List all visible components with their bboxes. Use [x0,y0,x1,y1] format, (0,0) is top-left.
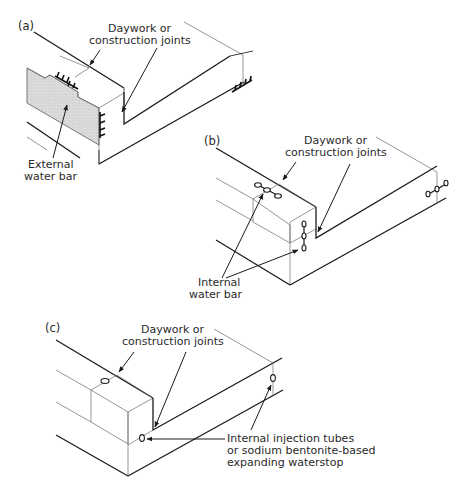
joint-line-top-b [75,68,89,77]
back-line-1 [216,178,253,199]
arrow-c-waterstop-far [251,385,271,430]
panel-b-joint-label-2: construction joints [285,146,387,159]
back-line-c2 [56,402,91,422]
diagram-canvas: (a) [0,0,466,498]
arrow-c-joint-1 [119,352,134,372]
block-top-face [253,184,316,222]
arrow-a-joint-2 [122,48,157,112]
arrow-b-waterbar-2 [226,250,298,278]
panel-a-label: (a) [18,19,34,33]
arrow-b-joint-2 [318,164,350,232]
base-left-edge-c [56,435,128,476]
joint-step [124,56,230,124]
far-wall-top-b [230,51,253,56]
arrow-c-joint-2 [155,352,186,427]
panel-c-label: (c) [45,321,60,335]
base-right-edge-b [290,198,446,285]
block-left-face [253,199,290,243]
arrow-b-joint-1 [283,162,296,180]
far-wall-top [184,22,243,55]
external-water-bar-ribs-side [100,112,105,138]
panel-b-label: (b) [204,134,220,148]
panel-b-waterbar-label-2: water bar [189,288,243,301]
panel-a-joint-label-2: construction joints [89,34,191,47]
waterstop-front [140,435,145,442]
panel-c-joint-label-2: construction joints [122,335,224,348]
external-water-bar-ribs-far [232,76,252,92]
panel-c-stop-label-3: expanding waterstop [227,456,343,469]
panel-a: (a) [18,19,253,183]
joint-step-c [153,358,282,430]
block-left-face-c [91,390,128,444]
waterstop-far [271,375,276,382]
back-line-c1 [56,370,91,390]
panel-a-waterbar-label-2: water bar [24,170,78,183]
waterstop-top [101,379,109,384]
base-lower-left [27,137,47,150]
block-top-face-c [91,375,153,412]
panel-c: (c) Daywork or construction joints Inter… [45,321,375,476]
panel-b: (b) [189,134,448,301]
joint-step-b [316,166,437,238]
internal-water-bar-side [302,221,306,251]
back-line-2 [216,200,253,221]
joint-details-diagram: (a) [0,0,466,498]
arrow-a-joint-1 [90,50,100,65]
wall-top-edge-c [56,340,153,398]
